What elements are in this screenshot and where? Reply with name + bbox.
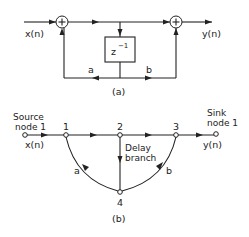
sink-node	[214, 132, 219, 137]
signal-flow-graph-b: Source node 1 Sink node 1 1 2 3	[13, 108, 238, 224]
delay-base: z	[111, 46, 116, 57]
arrow-head-icon	[82, 164, 89, 171]
arrow-head-icon	[205, 20, 212, 25]
source-label-line2: node 1	[15, 122, 46, 132]
arrow-head-icon	[92, 20, 99, 25]
caption-a: (a)	[112, 86, 125, 97]
node-4-label: 4	[117, 197, 123, 208]
input-label-b: x(n)	[25, 139, 44, 150]
node-2	[118, 133, 123, 138]
output-label: y(n)	[202, 28, 221, 39]
arrow-head-icon	[156, 162, 163, 170]
branch-b-label: b	[166, 165, 172, 176]
arrow-head-icon	[145, 133, 152, 138]
node-2-label: 2	[117, 121, 123, 132]
arrow-head-icon	[118, 29, 123, 36]
coefficient-a-label: a	[88, 64, 94, 75]
source-label-line1: Source	[13, 112, 44, 122]
sink-label-line1: Sink	[207, 108, 227, 118]
node-3-label: 3	[173, 121, 179, 132]
signal-flow-figure: z −1 x(n) y(n) a b (a) Source node 1 Sin…	[0, 0, 249, 237]
sink-label-line2: node 1	[207, 118, 238, 128]
arrow-head-icon	[118, 156, 123, 163]
block-diagram-a: z −1 x(n) y(n) a b (a)	[24, 16, 221, 97]
node-1-label: 1	[63, 121, 69, 132]
caption-b: (b)	[112, 213, 125, 224]
arrow-head-icon	[41, 133, 48, 138]
arrow-head-icon	[92, 76, 99, 81]
node-1	[64, 133, 69, 138]
arrow-head-icon	[90, 133, 97, 138]
node-3	[174, 133, 179, 138]
branch-a-label: a	[74, 165, 80, 176]
arrow-head-icon	[174, 28, 179, 35]
source-node	[23, 133, 28, 138]
arrow-head-icon	[163, 20, 170, 25]
coefficient-b-label: b	[146, 64, 152, 75]
arrow-head-icon	[49, 20, 56, 25]
delay-label-line1: Delay	[125, 143, 151, 153]
node-4	[118, 190, 123, 195]
arrow-head-icon	[145, 76, 152, 81]
output-label-b: y(n)	[203, 139, 222, 150]
delay-label-line2: branch	[125, 153, 156, 163]
branch-a-curve	[66, 137, 118, 191]
arrow-head-icon	[196, 133, 203, 138]
delay-exponent: −1	[118, 42, 128, 50]
input-label: x(n)	[25, 28, 44, 39]
